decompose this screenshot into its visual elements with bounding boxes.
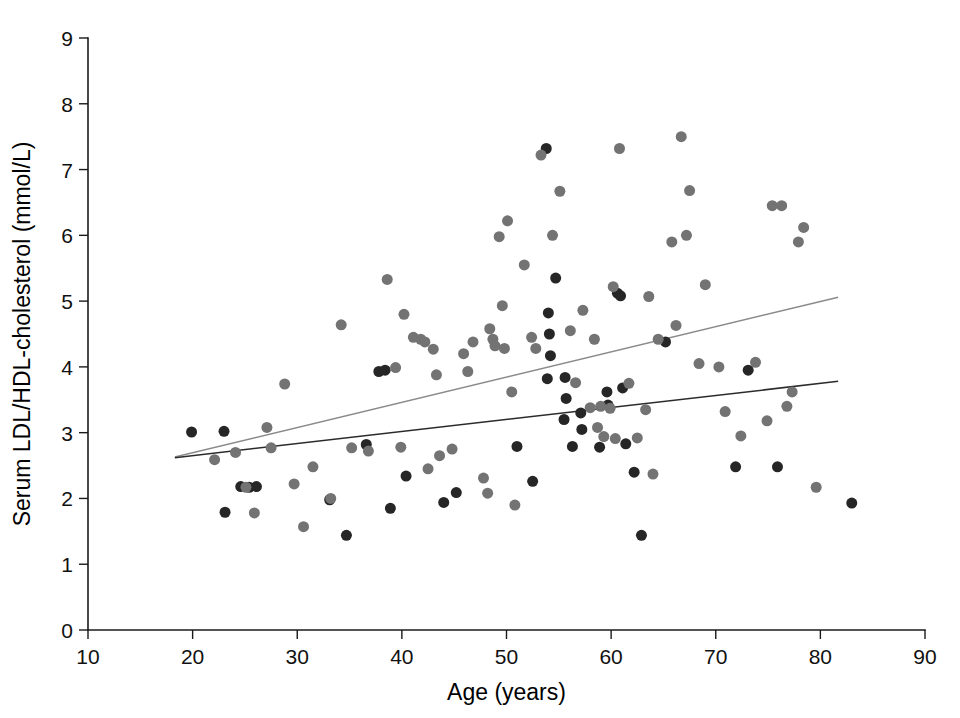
data-point-group-gray xyxy=(547,230,558,241)
scatter-plot-figure: 0123456789102030405060708090 Age (years)… xyxy=(0,0,960,718)
data-point-group-gray xyxy=(598,431,609,442)
data-point-group-dark xyxy=(451,487,462,498)
y-tick-label-5: 5 xyxy=(61,290,73,313)
data-point-group-gray xyxy=(363,446,374,457)
data-point-group-gray xyxy=(554,186,565,197)
data-point-group-gray xyxy=(643,291,654,302)
data-point-group-dark xyxy=(620,438,631,449)
data-point-group-gray xyxy=(647,469,658,480)
data-point-group-gray xyxy=(482,488,493,499)
data-point-group-gray xyxy=(610,433,621,444)
data-point-group-gray xyxy=(750,357,761,368)
data-point-group-gray xyxy=(468,336,479,347)
y-axis-title: Serum LDL/HDL-cholesterol (mmol/L) xyxy=(9,142,35,527)
data-point-group-gray xyxy=(565,325,576,336)
data-point-group-dark xyxy=(401,471,412,482)
data-point-group-dark xyxy=(511,441,522,452)
y-tick-label-7: 7 xyxy=(61,159,73,182)
data-point-group-gray xyxy=(489,340,500,351)
data-point-group-gray xyxy=(713,361,724,372)
data-point-group-gray xyxy=(447,444,458,455)
data-point-group-gray xyxy=(419,336,430,347)
data-point-group-gray xyxy=(434,450,445,461)
data-point-group-dark xyxy=(601,386,612,397)
data-point-group-dark xyxy=(575,407,586,418)
data-point-group-dark xyxy=(380,365,391,376)
data-point-group-gray xyxy=(462,366,473,377)
data-point-group-gray xyxy=(762,415,773,426)
data-point-group-gray xyxy=(793,236,804,247)
data-point-group-dark xyxy=(544,329,555,340)
data-point-group-gray xyxy=(298,521,309,532)
data-point-group-gray xyxy=(787,386,798,397)
data-point-group-gray xyxy=(494,231,505,242)
y-tick-label-8: 8 xyxy=(61,93,73,116)
data-point-group-gray xyxy=(519,259,530,270)
x-tick-label-50: 50 xyxy=(495,645,518,668)
data-point-group-gray xyxy=(585,402,596,413)
data-point-group-gray xyxy=(640,404,651,415)
data-point-group-gray xyxy=(390,362,401,373)
data-point-group-gray xyxy=(458,348,469,359)
data-point-group-gray xyxy=(592,422,603,433)
data-point-group-gray xyxy=(666,236,677,247)
data-point-group-dark xyxy=(615,290,626,301)
data-point-group-dark xyxy=(629,467,640,478)
data-point-group-gray xyxy=(478,473,489,484)
data-point-group-gray xyxy=(570,377,581,388)
data-point-group-dark xyxy=(543,307,554,318)
x-tick-label-30: 30 xyxy=(286,645,309,668)
data-point-group-dark xyxy=(561,393,572,404)
data-point-group-gray xyxy=(408,332,419,343)
data-point-group-gray xyxy=(623,378,634,389)
data-point-group-gray xyxy=(289,478,300,489)
data-point-group-dark xyxy=(560,372,571,383)
data-point-group-gray xyxy=(431,369,442,380)
data-point-group-dark xyxy=(251,481,262,492)
x-tick-label-90: 90 xyxy=(913,645,936,668)
data-point-group-dark xyxy=(567,441,578,452)
x-tick-label-20: 20 xyxy=(181,645,204,668)
data-point-group-dark xyxy=(772,461,783,472)
data-point-group-gray xyxy=(767,200,778,211)
data-point-group-gray xyxy=(605,403,616,414)
data-point-group-gray xyxy=(509,500,520,511)
y-tick-label-1: 1 xyxy=(61,553,73,576)
x-tick-label-80: 80 xyxy=(809,645,832,668)
data-point-group-gray xyxy=(484,323,495,334)
data-point-group-gray xyxy=(307,461,318,472)
data-point-group-gray xyxy=(536,150,547,161)
data-point-group-gray xyxy=(681,230,692,241)
data-point-group-gray xyxy=(781,401,792,412)
data-point-group-gray xyxy=(811,482,822,493)
data-point-group-gray xyxy=(595,401,606,412)
y-tick-label-2: 2 xyxy=(61,487,73,510)
data-point-group-dark xyxy=(594,442,605,453)
data-point-group-gray xyxy=(577,305,588,316)
data-point-group-dark xyxy=(730,461,741,472)
data-point-group-dark xyxy=(559,414,570,425)
data-point-group-gray xyxy=(632,432,643,443)
data-point-group-dark xyxy=(542,373,553,384)
data-point-group-gray xyxy=(209,454,220,465)
data-point-group-gray xyxy=(325,493,336,504)
data-point-group-gray xyxy=(279,378,290,389)
data-point-group-gray xyxy=(720,406,731,417)
data-point-group-gray xyxy=(336,319,347,330)
x-axis-title: Age (years) xyxy=(447,679,566,705)
data-point-group-gray xyxy=(382,274,393,285)
x-tick-label-40: 40 xyxy=(390,645,413,668)
data-point-group-dark xyxy=(846,498,857,509)
data-point-group-gray xyxy=(395,442,406,453)
data-point-group-gray xyxy=(735,430,746,441)
y-tick-label-0: 0 xyxy=(61,619,73,642)
data-point-group-dark xyxy=(550,273,561,284)
data-point-group-gray xyxy=(526,332,537,343)
y-tick-label-4: 4 xyxy=(61,356,73,379)
data-point-group-dark xyxy=(545,350,556,361)
data-point-group-gray xyxy=(240,482,251,493)
data-point-group-dark xyxy=(636,530,647,541)
data-point-group-gray xyxy=(266,442,277,453)
x-tick-label-10: 10 xyxy=(76,645,99,668)
axes xyxy=(88,38,925,630)
